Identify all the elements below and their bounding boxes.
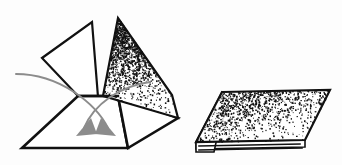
folding-sheet-diagram: [0, 0, 342, 165]
figure-root: [0, 0, 342, 165]
